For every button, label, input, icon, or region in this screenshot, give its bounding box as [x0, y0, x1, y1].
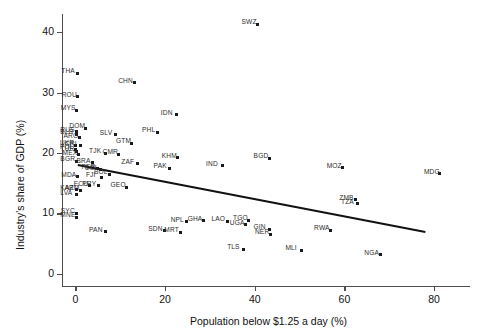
data-point — [247, 219, 250, 222]
data-point-label: GTM — [116, 138, 131, 145]
x-tick-mark — [344, 286, 345, 291]
x-tick-mark — [434, 286, 435, 291]
data-point-label: SWZ — [241, 19, 256, 26]
data-point — [136, 162, 139, 165]
x-tick-label: 0 — [63, 293, 87, 305]
data-point-label: NGA — [364, 250, 379, 257]
data-point-label: BGD — [254, 153, 269, 160]
data-point — [226, 220, 229, 223]
y-tick-label: 0 — [28, 267, 54, 279]
data-point — [202, 219, 205, 222]
x-tick-mark — [75, 286, 76, 291]
x-tick-label: 60 — [332, 293, 356, 305]
data-point-label: THA — [61, 68, 75, 75]
y-tick-mark — [57, 274, 62, 275]
data-point-label: ROU — [62, 92, 77, 99]
data-point-label: MYS — [61, 105, 76, 112]
y-tick-mark — [57, 32, 62, 33]
data-point-label: RWA — [314, 225, 329, 232]
data-point-label: SDN — [148, 226, 162, 233]
data-point — [300, 249, 303, 252]
y-tick-label: 40 — [28, 25, 54, 37]
data-point-label: TLS — [227, 244, 240, 251]
data-point-label: MRT — [164, 227, 179, 234]
x-axis-label: Population below $1.25 a day (%) — [190, 315, 347, 327]
data-point-label: CMR — [102, 149, 117, 156]
data-point-label: IDN — [161, 110, 173, 117]
x-tick-mark — [165, 286, 166, 291]
data-point-label: MLI — [285, 245, 296, 252]
data-point-label: MDG — [424, 169, 440, 176]
data-point-label: KHM — [162, 153, 177, 160]
data-point — [133, 81, 136, 84]
data-point-label: ZAF — [121, 159, 134, 166]
x-tick-label: 20 — [153, 293, 177, 305]
data-point — [114, 133, 117, 136]
data-point-label: PAK — [154, 163, 167, 170]
data-point — [75, 193, 78, 196]
x-tick-label: 80 — [422, 293, 446, 305]
data-point-label: BGR — [60, 156, 75, 163]
data-point-label: GEO — [111, 182, 126, 189]
data-point — [79, 144, 82, 147]
data-point — [156, 131, 159, 134]
data-point — [76, 72, 79, 75]
data-point — [75, 212, 78, 215]
y-axis-label: Industry's share of GDP (%) — [14, 120, 26, 250]
y-tick-label: 10 — [28, 206, 54, 218]
data-point — [354, 198, 357, 201]
data-point-label: LAO — [211, 216, 225, 223]
data-point-label: TJK — [89, 148, 101, 155]
data-point — [179, 231, 182, 234]
data-point-label: SLV — [100, 130, 112, 137]
data-point — [268, 157, 271, 160]
data-point-label: IND — [206, 161, 218, 168]
data-point — [97, 184, 100, 187]
scatter-plot-figure: Industry's share of GDP (%) Population b… — [0, 0, 494, 336]
y-tick-label: 20 — [28, 146, 54, 158]
data-point-label: NER — [255, 229, 269, 236]
data-point-label: UGA — [230, 220, 245, 227]
data-point-label: TZA — [341, 199, 354, 206]
data-point-label: MOZ — [327, 163, 342, 170]
data-point — [269, 233, 272, 236]
data-point — [242, 248, 245, 251]
data-point — [78, 136, 81, 139]
data-point — [168, 167, 171, 170]
data-point — [100, 176, 103, 179]
trendline — [77, 164, 425, 233]
data-point-label: PRY — [82, 181, 96, 188]
data-point — [104, 230, 107, 233]
y-tick-mark — [57, 153, 62, 154]
x-tick-mark — [255, 286, 256, 291]
data-point-label: CHN — [118, 78, 133, 85]
data-point-label: LVA — [60, 190, 72, 197]
x-axis-line — [62, 286, 470, 287]
data-point — [77, 153, 80, 156]
y-tick-label: 30 — [28, 86, 54, 98]
data-point — [221, 164, 224, 167]
data-point-label: MNE — [60, 212, 75, 219]
data-point-label: MDA — [61, 172, 76, 179]
data-point-label: PAN — [89, 227, 103, 234]
data-point-label: FJI — [86, 172, 96, 179]
data-point — [379, 253, 382, 256]
data-point-label: GHA — [188, 216, 203, 223]
data-point-label: NPL — [171, 217, 184, 224]
data-point-label: PHL — [142, 127, 155, 134]
data-point — [356, 202, 359, 205]
data-point — [175, 113, 178, 116]
x-tick-label: 40 — [243, 293, 267, 305]
data-point — [108, 173, 111, 176]
